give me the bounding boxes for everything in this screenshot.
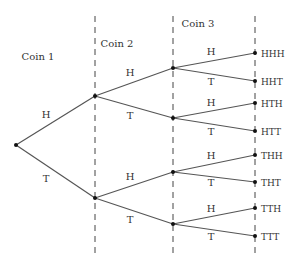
stage-labels: Coin 1Coin 2Coin 3 (22, 18, 215, 62)
branch-line (95, 198, 173, 224)
branch-label: T (208, 231, 215, 242)
branch-label: T (127, 214, 134, 225)
branch-label: T (208, 76, 215, 87)
branch-label: T (208, 177, 215, 188)
branch-label: T (127, 110, 134, 121)
leaf-node (253, 234, 257, 238)
tree-node (93, 196, 97, 200)
outcome-labels: HHHHHTHTHHTTTHHTHTTTHTTT (253, 49, 285, 242)
leaf-node (253, 51, 257, 55)
stage-label: Coin 2 (101, 38, 134, 49)
branch-label: H (126, 171, 135, 182)
tree-node (171, 66, 175, 70)
branch-label: T (208, 126, 215, 137)
branch-label: H (207, 203, 216, 214)
stage-label: Coin 3 (182, 18, 215, 29)
stage-dividers (95, 16, 255, 256)
coin-tree-diagram: HTHTHTHTHTHTHT Coin 1Coin 2Coin 3 HHHHHT… (0, 0, 294, 269)
stage-label: Coin 1 (22, 51, 55, 62)
outcome-label: TTT (261, 232, 279, 242)
outcome-label: HHH (261, 49, 285, 59)
leaf-node (253, 206, 257, 210)
branch-label: H (42, 109, 51, 120)
branch-line (16, 96, 95, 145)
branch-label: H (126, 67, 135, 78)
branch-label: H (207, 150, 216, 161)
branch-label: H (207, 97, 216, 108)
tree-node (171, 222, 175, 226)
leaf-node (253, 129, 257, 133)
root-node (14, 143, 18, 147)
tree-node (93, 94, 97, 98)
branch-line (16, 145, 95, 198)
outcome-label: HHT (261, 77, 283, 87)
outcome-label: THH (261, 151, 283, 161)
branch-label: T (43, 173, 50, 184)
nodes (14, 66, 175, 226)
tree-node (171, 116, 175, 120)
outcome-label: HTH (261, 99, 283, 109)
leaf-node (253, 153, 257, 157)
branches: HTHTHTHTHTHTHT (16, 46, 255, 242)
outcome-label: HTT (261, 127, 281, 137)
outcome-label: THT (261, 178, 281, 188)
leaf-node (253, 101, 257, 105)
tree-node (171, 170, 175, 174)
leaf-node (253, 180, 257, 184)
leaf-node (253, 79, 257, 83)
branch-label: H (207, 46, 216, 57)
outcome-label: TTH (261, 204, 281, 214)
branch-line (95, 96, 173, 118)
